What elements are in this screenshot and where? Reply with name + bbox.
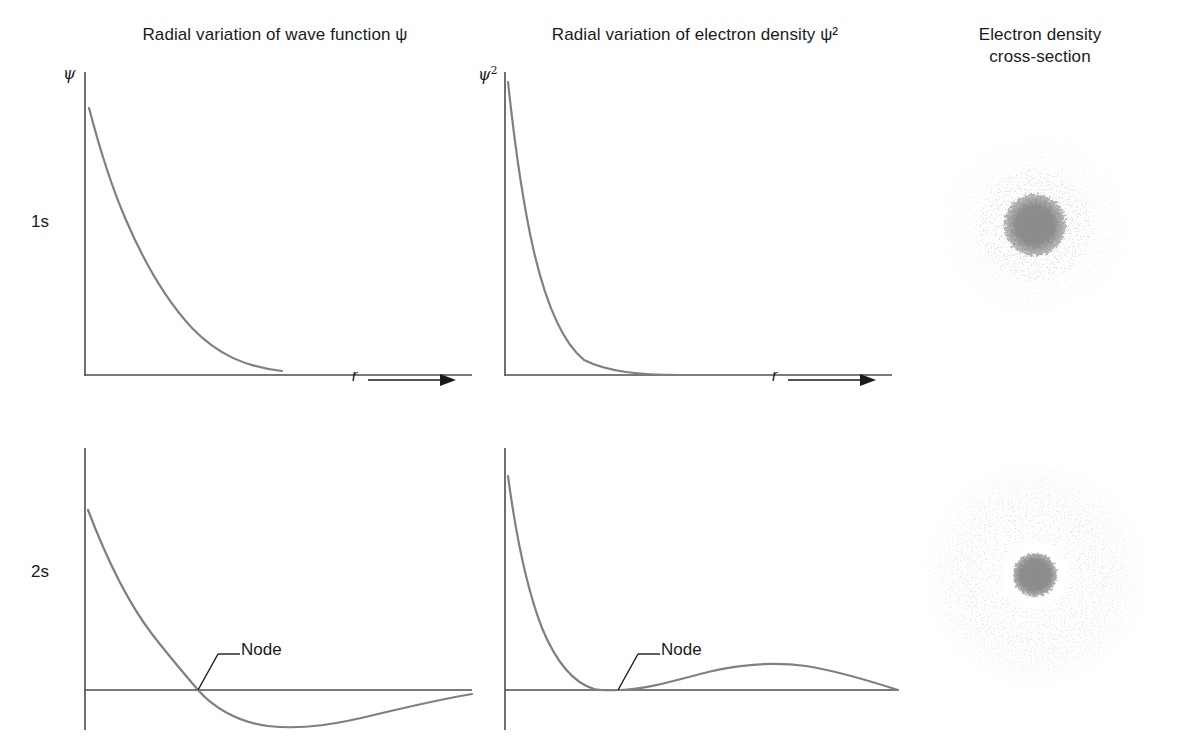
node-leader-line-2s-wavefunction <box>198 654 240 690</box>
x-axis-label-r-2: r <box>772 367 777 385</box>
electron-cloud-core-1s <box>1004 194 1066 256</box>
column-title-wave-function: Radial variation of wave function ψ <box>70 24 480 46</box>
x-axis-arrow-1s <box>368 370 458 390</box>
y-axis-label-psi-squared-1s: ψ2 <box>478 64 498 84</box>
curve-1s-electron-density <box>508 82 780 375</box>
node-text-1: Node <box>241 640 282 659</box>
cross-section-1s <box>930 125 1140 325</box>
cross-section-title-line2: cross-section <box>900 46 1180 68</box>
panel-2s-wavefunction <box>60 440 490 740</box>
figure-canvas: Radial variation of wave function ψ Radi… <box>0 0 1189 751</box>
panel-2s-electron-density <box>480 440 910 740</box>
panel-1s-wavefunction <box>60 60 490 400</box>
y-axis-label-psi-1s: ψ <box>63 64 76 83</box>
electron-cloud-inner-core-2s <box>1013 553 1057 597</box>
column-title-cross-section: Electron density cross-section <box>900 24 1180 68</box>
curve-2s-wavefunction <box>88 510 472 727</box>
panel-1s-electron-density <box>480 60 910 400</box>
curve-2s-electron-density <box>508 476 898 690</box>
x-axis-label-r-1s: r <box>352 367 357 385</box>
cross-section-title-line1: Electron density <box>900 24 1180 46</box>
node-label-2s-electron-density: Node <box>661 640 702 660</box>
node-text-2: Node <box>661 640 702 659</box>
column-title-electron-density: Radial variation of electron density ψ² <box>490 24 900 46</box>
curve-1s-wavefunction <box>89 108 282 371</box>
cross-section-2s <box>915 455 1155 695</box>
x-axis-arrow-2 <box>788 370 878 390</box>
node-label-2s-wavefunction: Node <box>241 640 282 660</box>
